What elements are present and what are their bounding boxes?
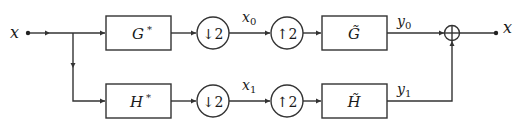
filter-bank-diagram: x x G* ↓2 x0 ↑2 G̃ y0 H* ↓2 x1 ↑2 H̃ y1 — [0, 0, 518, 131]
downsampler-bottom-label: ↓2 — [203, 94, 224, 110]
input-label: x — [10, 23, 19, 42]
subband-x1-label: x1 — [242, 77, 256, 95]
subband-x0-label: x0 — [242, 9, 256, 27]
output-node-dot — [494, 31, 498, 35]
synthesis-filter-g-label: G̃ — [348, 25, 360, 43]
output-label: x — [503, 18, 512, 37]
downsampler-top-label: ↓2 — [203, 26, 224, 42]
upsampler-bottom-label: ↑2 — [277, 94, 298, 110]
branch-line-lower — [73, 68, 105, 101]
synthesis-filter-h-label: H̃ — [346, 93, 361, 111]
branch-output-y1-label: y1 — [396, 81, 411, 99]
upsampler-top-label: ↑2 — [277, 26, 298, 42]
input-node-dot — [26, 31, 30, 35]
branch-output-y0-label: y0 — [396, 13, 411, 31]
